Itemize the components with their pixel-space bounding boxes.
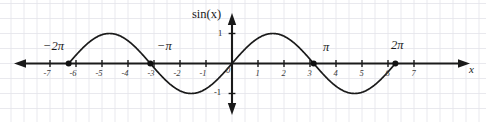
- origin-label: 0: [226, 66, 230, 75]
- graph-plot-area: [0, 0, 486, 122]
- y-axis-label: sin(x): [192, 8, 221, 21]
- x-tick-label-minus3: -3: [148, 69, 155, 78]
- x-tick-label-3: 3: [308, 69, 312, 78]
- x-tick-label-minus1: -1: [200, 69, 207, 78]
- x-tick-label-minus6: -6: [70, 69, 77, 78]
- x-tick-label-2: 2: [282, 69, 286, 78]
- x-tick-label-minus4: -4: [122, 69, 129, 78]
- x-tick-label-minus2: -2: [174, 69, 181, 78]
- x-tick-label-5: 5: [360, 69, 364, 78]
- x-tick-label-1: 1: [256, 69, 260, 78]
- x-tick-label-7: 7: [412, 69, 416, 78]
- annotation-pi: π: [323, 41, 329, 54]
- x-axis-label: x: [469, 64, 474, 75]
- x-tick-label-minus7: -7: [44, 69, 51, 78]
- annotation-minus-pi: −π: [157, 40, 172, 53]
- y-tick-label-minus-1: -1: [214, 88, 221, 97]
- annotation-minus-two-pi: −2π: [43, 40, 64, 53]
- x-tick-label-6: 6: [386, 69, 390, 78]
- y-tick-label-1: 1: [218, 29, 222, 38]
- x-tick-label-4: 4: [334, 69, 338, 78]
- sine-graph-figure: sin(x) x 1 -1 0 −2π −π π 2π -7-6-5-4-3-2…: [0, 0, 486, 122]
- annotation-two-pi: 2π: [391, 39, 404, 52]
- x-tick-label-minus5: -5: [96, 69, 103, 78]
